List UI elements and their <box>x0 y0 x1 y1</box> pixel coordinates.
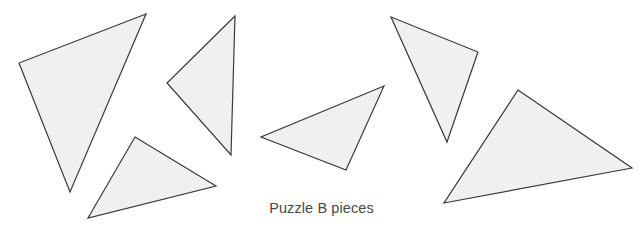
puzzle-piece-5[interactable] <box>391 17 478 142</box>
figure-caption: Puzzle B pieces <box>0 199 643 217</box>
puzzle-pieces-canvas <box>0 0 643 230</box>
puzzle-piece-6[interactable] <box>444 90 632 203</box>
puzzle-figure: Puzzle B pieces <box>0 0 643 230</box>
puzzle-piece-4[interactable] <box>261 86 384 170</box>
puzzle-piece-2[interactable] <box>167 16 235 155</box>
